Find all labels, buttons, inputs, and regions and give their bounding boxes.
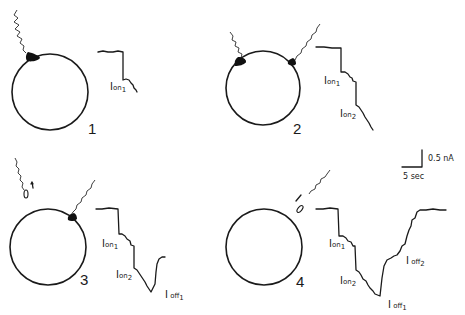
panel-2: Ion1 Ion2 2 [226,24,373,137]
cell-circle [12,54,88,130]
trace-label: Ion1 [110,81,126,94]
withdrawn-electrode-icon [15,158,33,198]
trace-label: Ion2 [116,269,132,282]
trace-label: Ion1 [102,238,118,251]
panel-3: Ion1 Ion2 I off1 3 [10,158,184,302]
electrode-left-icon [230,32,246,66]
panel-1: Ion1 1 [12,10,137,137]
trace-label: Ion1 [329,238,345,251]
scale-time-label: 5 sec [403,172,424,181]
withdrawn-electrode-icon [296,170,330,213]
cell-circle [226,209,302,285]
electrode-icon [14,10,40,61]
panel-number: 4 [296,273,304,290]
scale-bar: 0.5 nA 5 sec [402,150,454,181]
scale-current-label: 0.5 nA [428,154,454,163]
panel-number: 3 [80,271,88,288]
trace-label: I off2 [406,255,425,268]
panel-number: 2 [293,120,301,137]
electrode-right-icon [288,24,320,66]
electrode-right-icon [68,180,95,221]
trace-label: I off1 [388,299,407,312]
electrophysiology-figure: Ion1 1 Ion1 Ion2 2 0.5 nA 5 sec [0,0,465,315]
trace-label: Ion1 [324,75,340,88]
trace-label: Ion2 [340,108,356,121]
current-trace [316,208,446,296]
panel-number: 1 [88,120,96,137]
panel-4: Ion1 Ion2 I off1 I off2 4 [226,170,446,312]
trace-label: Ion2 [340,275,356,288]
trace-label: I off1 [165,289,184,302]
